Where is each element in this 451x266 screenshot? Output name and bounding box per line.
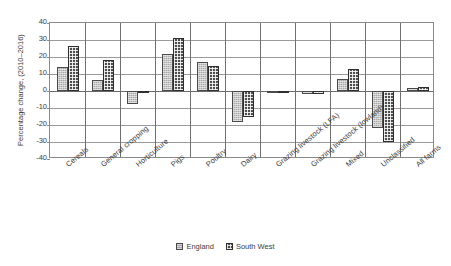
legend-swatch-icon xyxy=(226,243,233,250)
y-axis-tick-mark xyxy=(47,142,50,143)
bar-south-west-mixed xyxy=(348,69,359,91)
gridline-horizontal xyxy=(50,142,433,143)
bar-england-mixed xyxy=(337,79,348,91)
bar-south-west-grazing-livestock-lowland xyxy=(313,91,324,94)
y-axis-tick-labels: 403020100-10-20-30-40 xyxy=(24,0,47,266)
bar-england-grazing-livestock-lfa xyxy=(267,91,278,93)
gridline-vertical xyxy=(260,23,261,157)
plot-area xyxy=(49,22,434,158)
y-axis-tick-mark xyxy=(47,125,50,126)
bar-england-poultry xyxy=(197,62,208,91)
gridline-horizontal xyxy=(50,57,433,58)
legend-swatch-icon xyxy=(176,243,183,250)
y-axis-tick-mark xyxy=(47,159,50,160)
y-axis-tick-mark xyxy=(47,23,50,24)
y-axis-tick-label: 20 xyxy=(25,52,47,60)
legend-label: South West xyxy=(236,242,275,251)
gridline-vertical xyxy=(400,23,401,157)
bar-south-west-grazing-livestock-lfa xyxy=(278,91,289,93)
y-axis-tick-mark xyxy=(47,91,50,92)
y-axis-tick-label: -20 xyxy=(25,120,47,128)
bar-england-all-farms xyxy=(407,88,418,91)
gridline-vertical xyxy=(330,23,331,157)
gridline-vertical xyxy=(85,23,86,157)
y-axis-tick-mark xyxy=(47,108,50,109)
gridline-vertical xyxy=(190,23,191,157)
gridline-vertical xyxy=(155,23,156,157)
bar-south-west-horticulture xyxy=(138,91,149,93)
chart-legend: EnglandSouth West xyxy=(0,241,451,252)
legend-item-england[interactable]: England xyxy=(176,241,214,252)
y-axis-tick-label: -30 xyxy=(25,137,47,145)
bar-south-west-dairy xyxy=(243,91,254,117)
legend-label: England xyxy=(186,242,214,251)
bar-england-dairy xyxy=(232,91,243,122)
bar-south-west-general-cropping xyxy=(103,60,114,91)
bar-south-west-poultry xyxy=(208,66,219,91)
bar-chart: Percentage change, (2010–2016) 403020100… xyxy=(0,0,451,266)
gridline-horizontal xyxy=(50,40,433,41)
y-axis-tick-mark xyxy=(47,74,50,75)
bar-england-pigs xyxy=(162,54,173,91)
bar-south-west-unclassified xyxy=(383,91,394,142)
bar-england-cereals xyxy=(57,67,68,91)
bar-south-west-cereals xyxy=(68,46,79,91)
bar-england-general-cropping xyxy=(92,80,103,91)
gridline-vertical xyxy=(295,23,296,157)
bar-england-grazing-livestock-lowland xyxy=(302,91,313,94)
y-axis-tick-label: 10 xyxy=(25,69,47,77)
bar-england-horticulture xyxy=(127,91,138,104)
gridline-vertical xyxy=(365,23,366,157)
y-axis-tick-label: -40 xyxy=(25,154,47,162)
y-axis-tick-label: 30 xyxy=(25,35,47,43)
y-axis-tick-label: -10 xyxy=(25,103,47,111)
legend-item-south-west[interactable]: South West xyxy=(226,241,275,252)
y-axis-tick-mark xyxy=(47,40,50,41)
y-axis-tick-label: 0 xyxy=(25,86,47,94)
gridline-vertical xyxy=(120,23,121,157)
y-axis-tick-mark xyxy=(47,57,50,58)
gridline-vertical xyxy=(225,23,226,157)
bar-south-west-pigs xyxy=(173,38,184,91)
bar-south-west-all-farms xyxy=(418,87,429,91)
y-axis-tick-label: 40 xyxy=(25,18,47,26)
